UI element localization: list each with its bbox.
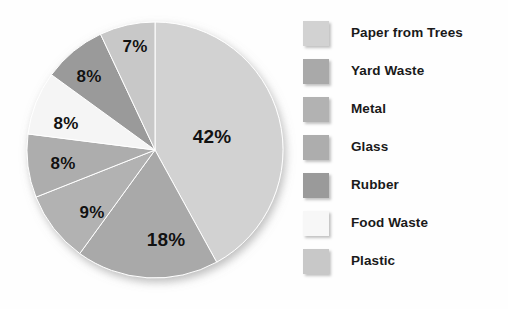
legend-item-label: Yard Waste <box>351 64 424 78</box>
pie-slice-label: 9% <box>80 203 105 223</box>
legend-item-label: Paper from Trees <box>351 26 463 40</box>
legend-item[interactable]: Plastic <box>303 242 503 280</box>
legend-item-label: Plastic <box>351 254 395 268</box>
legend-item-label: Metal <box>351 102 386 116</box>
pie-chart-svg <box>0 0 300 309</box>
pie-slice-label: 8% <box>51 154 76 174</box>
legend-item[interactable]: Glass <box>303 128 503 166</box>
legend-swatch-icon <box>303 211 329 236</box>
legend-item[interactable]: Rubber <box>303 166 503 204</box>
pie-chart-area: 42%18%9%8%8%8%7% <box>0 0 300 309</box>
legend-item[interactable]: Food Waste <box>303 204 503 242</box>
legend-swatch-icon <box>303 135 329 160</box>
legend-swatch-icon <box>303 97 329 122</box>
pie-slice-label: 42% <box>193 126 232 148</box>
chart-legend: Paper from TreesYard WasteMetalGlassRubb… <box>303 14 503 280</box>
legend-swatch-icon <box>303 59 329 84</box>
legend-item-label: Glass <box>351 140 388 154</box>
pie-slice-label: 18% <box>147 229 186 251</box>
legend-item[interactable]: Yard Waste <box>303 52 503 90</box>
legend-item[interactable]: Metal <box>303 90 503 128</box>
legend-item[interactable]: Paper from Trees <box>303 14 503 52</box>
pie-slice-label: 7% <box>123 37 148 57</box>
legend-item-label: Food Waste <box>351 216 428 230</box>
pie-slice-label: 8% <box>77 67 102 87</box>
legend-item-label: Rubber <box>351 178 399 192</box>
pie-chart-figure: 42%18%9%8%8%8%7% Paper from TreesYard Wa… <box>0 0 508 309</box>
legend-swatch-icon <box>303 173 329 198</box>
legend-swatch-icon <box>303 21 329 46</box>
legend-swatch-icon <box>303 249 329 274</box>
pie-slice-label: 8% <box>54 114 79 134</box>
